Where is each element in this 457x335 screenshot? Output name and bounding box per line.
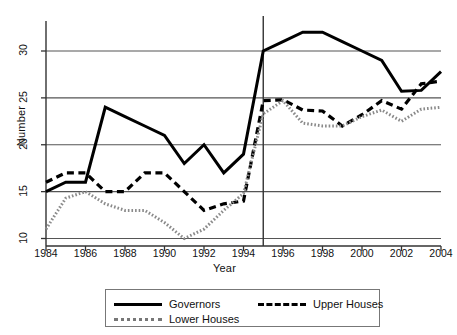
data-series-group: [46, 32, 441, 238]
gridlines-group: [46, 51, 441, 239]
y-tick-label-20: 20: [17, 129, 29, 159]
x-tick-label-2002: 2002: [382, 247, 422, 259]
x-axis-title: Year: [0, 262, 449, 274]
legend-entry-upper-houses: Upper Houses: [258, 295, 383, 312]
y-tick-label-25: 25: [17, 82, 29, 112]
x-tick-label-2004: 2004: [421, 247, 457, 259]
series-line-lower-houses: [46, 101, 441, 239]
y-tick-label-15: 15: [17, 176, 29, 206]
y-tick-label-10: 10: [17, 223, 29, 253]
solid-line-swatch: [114, 303, 162, 306]
x-tick-label-2000: 2000: [342, 247, 382, 259]
x-tick-label-1994: 1994: [224, 247, 264, 259]
x-tick-label-1986: 1986: [66, 247, 106, 259]
x-tick-label-1988: 1988: [105, 247, 145, 259]
dotted-line-swatch: [114, 318, 162, 321]
legend-label-governors: Governors: [169, 298, 220, 310]
legend-row-bottom: Lower Houses: [114, 310, 239, 327]
legend-label-lower-houses: Lower Houses: [169, 313, 239, 325]
x-tick-label-1996: 1996: [263, 247, 303, 259]
x-tick-label-1984: 1984: [26, 247, 66, 259]
x-tick-label-1992: 1992: [184, 247, 224, 259]
series-line-upper-houses: [46, 81, 441, 210]
chart-legend: Governors Upper Houses Lower Houses: [105, 289, 380, 327]
series-line-governors: [46, 32, 441, 191]
x-tick-label-1998: 1998: [303, 247, 343, 259]
y-tick-label-30: 30: [17, 35, 29, 65]
legend-entry-lower-houses: Lower Houses: [114, 310, 239, 327]
dashed-line-swatch: [258, 303, 306, 306]
x-tick-label-1990: 1990: [145, 247, 185, 259]
tick-marks-group: [41, 51, 441, 251]
legend-label-upper-houses: Upper Houses: [313, 298, 383, 310]
legend-row-top-right: Upper Houses: [258, 295, 383, 312]
axis-lines-group: [46, 21, 441, 246]
